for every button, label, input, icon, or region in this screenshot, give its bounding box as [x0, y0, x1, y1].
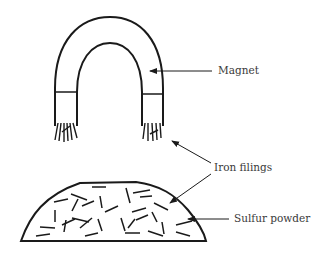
magnet-inner-arc — [77, 43, 142, 126]
iron-filings-label: Iron filings — [214, 161, 272, 173]
iron-filings-in-mixture — [36, 187, 192, 236]
magnet-outer-arc — [55, 17, 163, 126]
magnet-label: Magnet — [218, 64, 259, 76]
iron-filings-arrow-upper — [172, 141, 211, 163]
iron-filings-arrow-lower — [170, 174, 211, 203]
sulfur-iron-mound — [21, 182, 206, 241]
horseshoe-magnet — [55, 17, 163, 126]
iron-filings-on-magnet — [55, 123, 161, 142]
sulfur-powder-label: Sulfur powder — [234, 212, 310, 224]
